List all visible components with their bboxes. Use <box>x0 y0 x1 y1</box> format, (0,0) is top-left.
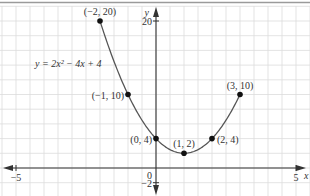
x-axis-left-arrow-icon <box>3 165 13 171</box>
point-label: (0, 4) <box>130 134 152 146</box>
point-label: (1, 2) <box>173 138 195 150</box>
x-axis-label: x <box>303 170 309 181</box>
data-point <box>153 136 159 142</box>
data-point <box>125 92 131 98</box>
point-label: (3, 10) <box>227 80 254 92</box>
point-label: (−2, 20) <box>84 6 116 18</box>
y-axis-label: y <box>144 7 150 18</box>
data-points: (−2, 20)(−1, 10)(0, 4)(1, 2)(2, 4)(3, 10… <box>84 6 253 156</box>
point-label: (−1, 10) <box>92 90 124 102</box>
parabola-chart: −5520−20yx (−2, 20)(−1, 10)(0, 4)(1, 2)(… <box>0 0 310 196</box>
origin-label: 0 <box>147 170 152 181</box>
axes: −5520−20yx <box>3 7 309 195</box>
y-axis-down-arrow-icon <box>153 185 159 195</box>
data-point <box>237 92 243 98</box>
y-axis-up-arrow-icon <box>153 7 159 17</box>
x-tick-label: 5 <box>294 172 299 183</box>
data-point <box>181 151 187 157</box>
data-point <box>209 136 215 142</box>
equation-label: y = 2x² − 4x + 4 <box>34 58 102 69</box>
point-label: (2, 4) <box>217 134 239 146</box>
x-tick-label: −5 <box>11 172 22 183</box>
data-point <box>97 18 103 24</box>
